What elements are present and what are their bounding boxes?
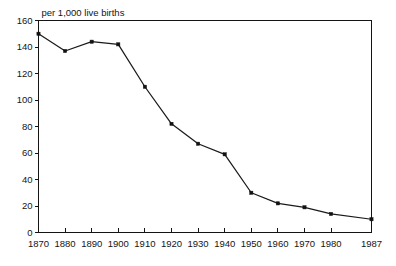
plot-area-frame bbox=[39, 21, 372, 233]
x-axis-tick-label: 1940 bbox=[214, 238, 235, 249]
x-axis-tick-label: 1870 bbox=[28, 238, 49, 249]
data-point-marker bbox=[90, 40, 93, 43]
data-point-marker bbox=[170, 122, 173, 125]
y-axis-tick-label: 100 bbox=[17, 94, 33, 105]
line-chart-container: 0204060801001201401601870188018901900191… bbox=[0, 0, 396, 266]
x-axis-tick-label: 1920 bbox=[161, 238, 182, 249]
x-axis-tick-label: 1950 bbox=[241, 238, 262, 249]
x-axis-tick-label: 1930 bbox=[188, 238, 209, 249]
data-point-marker bbox=[64, 49, 67, 52]
y-axis-tick-label: 120 bbox=[17, 68, 33, 79]
x-axis-tick-label: 1960 bbox=[267, 238, 288, 249]
data-point-marker bbox=[117, 43, 120, 46]
data-point-marker bbox=[330, 212, 333, 215]
data-point-marker bbox=[197, 142, 200, 145]
x-axis-tick-label: 1890 bbox=[81, 238, 102, 249]
data-point-marker bbox=[303, 206, 306, 209]
data-point-marker bbox=[37, 32, 40, 35]
y-axis-tick-label: 140 bbox=[17, 41, 33, 52]
y-axis-tick-label: 60 bbox=[22, 147, 33, 158]
x-axis-tick-label: 1970 bbox=[294, 238, 315, 249]
chart-canvas: 0204060801001201401601870188018901900191… bbox=[0, 0, 396, 266]
x-axis-tick-label: 1900 bbox=[108, 238, 129, 249]
data-point-marker bbox=[276, 202, 279, 205]
data-point-marker bbox=[250, 191, 253, 194]
y-axis-tick-label: 160 bbox=[17, 15, 33, 26]
data-point-marker bbox=[370, 218, 373, 221]
y-axis-tick-label: 80 bbox=[22, 121, 33, 132]
y-axis-tick-label: 0 bbox=[27, 227, 32, 238]
data-point-marker bbox=[223, 153, 226, 156]
x-axis-tick-label: 1987 bbox=[361, 238, 382, 249]
data-point-marker bbox=[143, 85, 146, 88]
y-axis-tick-label: 40 bbox=[22, 174, 33, 185]
x-axis-tick-label: 1880 bbox=[55, 238, 76, 249]
x-axis-tick-label: 1980 bbox=[321, 238, 342, 249]
x-axis-tick-label: 1910 bbox=[134, 238, 155, 249]
y-axis-tick-label: 20 bbox=[22, 200, 33, 211]
chart-title: per 1,000 live births bbox=[42, 7, 125, 18]
data-series-line bbox=[39, 34, 372, 220]
